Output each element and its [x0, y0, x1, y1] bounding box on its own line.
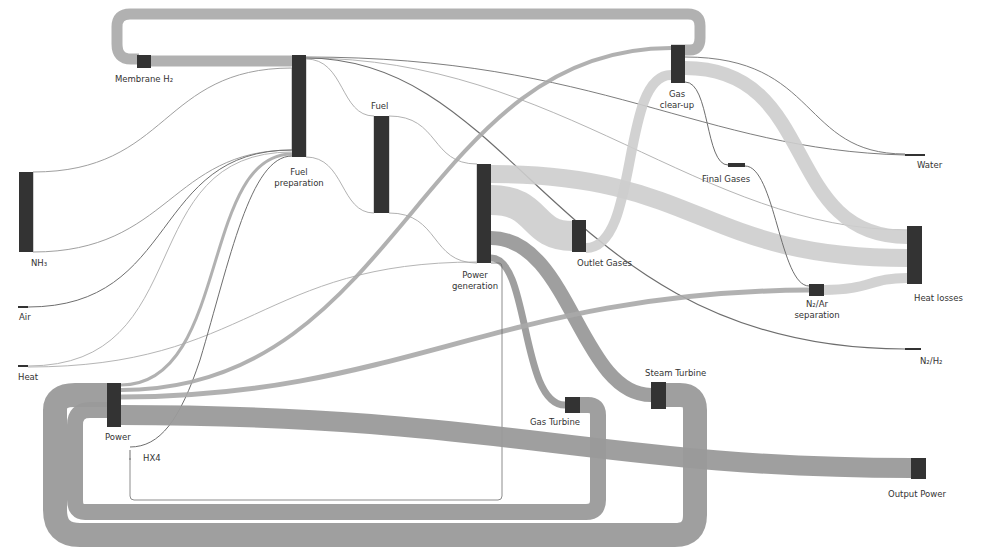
flow-nh3-to-fuelprep: [33, 68, 292, 252]
node-label-line2: separation: [794, 310, 839, 320]
node-label: Water: [917, 160, 943, 170]
node-label-line2: generation: [452, 281, 498, 291]
flow-finalgases-to-n2arseparation: [745, 166, 809, 286]
node-water[interactable]: Water: [905, 154, 943, 170]
node-label: Final Gases: [702, 174, 751, 184]
node-label-line1: Power: [462, 270, 488, 280]
node-hx4[interactable]: HX4: [143, 453, 161, 463]
node-final-gases[interactable]: Final Gases: [702, 163, 751, 184]
flow-powergen-to-outletgases: [491, 200, 572, 236]
flow-gasclearup-to-finalgases: [685, 82, 728, 165]
node-label: Gas Turbine: [530, 417, 580, 427]
node-power-generation[interactable]: Power generation: [452, 164, 498, 291]
node-heat-losses[interactable]: Heat losses: [907, 226, 964, 303]
node-label: NH₃: [31, 258, 47, 268]
flow-fuelprep-to-water: [306, 57, 905, 155]
flow-gasclearup-to-membraneh2: [117, 14, 700, 59]
node-fuel-preparation[interactable]: Fuel preparation: [274, 55, 324, 188]
node-label: Heat losses: [914, 293, 964, 303]
node-label: Heat: [18, 372, 39, 382]
flow-power-to-n2arseparation: [121, 290, 809, 397]
node-label: Power: [105, 432, 131, 442]
node-label: Outlet Gases: [577, 258, 632, 268]
node-label-line2: clear-up: [660, 100, 694, 110]
node-label-line1: Fuel: [290, 167, 307, 177]
node-label: N₂/H₂: [920, 356, 942, 366]
node-label: HX4: [143, 453, 161, 463]
sankey-diagram: NH₃ Air Heat Membrane H₂ Fuel preparatio…: [0, 0, 981, 556]
flow-n2arseparation-to-heatlosses: [824, 278, 907, 290]
flow-power-to-outputpower: [121, 415, 911, 468]
flow-heat-to-powergen: [28, 262, 477, 367]
flow-gasclearup-to-heatlosses: [685, 68, 907, 237]
node-label: Membrane H₂: [115, 74, 173, 84]
node-label: Air: [19, 312, 31, 322]
node-label-line1: Gas: [669, 89, 686, 99]
node-label-line2: preparation: [274, 178, 324, 188]
node-air[interactable]: Air: [18, 306, 31, 322]
flow-heat-to-fuelprep: [28, 152, 292, 366]
node-label-line1: N₂/Ar: [806, 299, 828, 309]
node-n2-h2[interactable]: N₂/H₂: [905, 348, 942, 366]
node-label: Fuel: [371, 101, 388, 111]
node-label: Steam Turbine: [645, 368, 706, 378]
node-heat[interactable]: Heat: [18, 365, 39, 382]
flow-fuelprep-to-fuel: [306, 59, 374, 213]
flow-fuelprep-to-heatlosses-thin: [306, 58, 907, 230]
node-label: Output Power: [888, 489, 946, 499]
